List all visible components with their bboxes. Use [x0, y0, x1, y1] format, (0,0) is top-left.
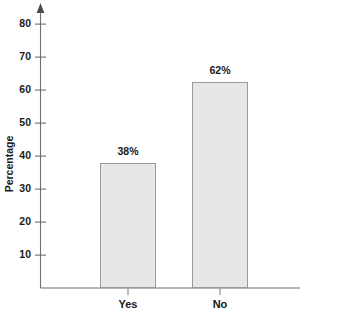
y-tick-label-40: 40	[19, 149, 31, 161]
bar-chart: 80 70 60 50 40 30 20 10 Percentage 38% 6…	[0, 0, 338, 319]
x-axis-ticks	[128, 288, 220, 295]
x-category-label-no: No	[213, 298, 228, 310]
bar-no[interactable]	[193, 83, 248, 288]
x-category-label-yes: Yes	[119, 298, 138, 310]
y-tick-label-10: 10	[19, 248, 31, 260]
axis-arrow-up-icon	[37, 3, 45, 13]
y-tick-label-30: 30	[19, 182, 31, 194]
y-tick-label-20: 20	[19, 215, 31, 227]
chart-canvas: 80 70 60 50 40 30 20 10 Percentage 38% 6…	[0, 0, 338, 319]
bar-value-label-yes: 38%	[117, 145, 139, 157]
y-tick-label-80: 80	[19, 17, 31, 29]
bar-value-label-no: 62%	[209, 64, 231, 76]
y-axis-title: Percentage	[3, 136, 15, 193]
y-tick-label-50: 50	[19, 116, 31, 128]
y-tick-label-60: 60	[19, 83, 31, 95]
y-tick-label-70: 70	[19, 50, 31, 62]
bar-yes[interactable]	[101, 164, 156, 288]
